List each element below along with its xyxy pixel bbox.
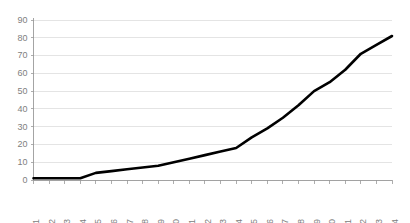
y-tick-label: 90 bbox=[17, 15, 27, 25]
chart-container: 0102030405060708090 19911992199319941995… bbox=[0, 0, 410, 223]
x-tick-label: 1993 bbox=[62, 219, 72, 223]
x-tick-label: 2005 bbox=[249, 219, 259, 223]
data-series bbox=[34, 36, 393, 178]
y-tick-label: 30 bbox=[17, 122, 27, 132]
y-tick-label: 70 bbox=[17, 50, 27, 60]
y-tick-label: 80 bbox=[17, 33, 27, 43]
y-axis bbox=[31, 18, 34, 180]
y-tick-label: 0 bbox=[22, 175, 27, 185]
x-tick-label: 1995 bbox=[93, 219, 103, 223]
x-tick-label: 2010 bbox=[327, 219, 337, 223]
x-tick-label: 2008 bbox=[296, 219, 306, 223]
x-tick-label: 2006 bbox=[265, 219, 275, 223]
y-tick-label: 40 bbox=[17, 104, 27, 114]
y-tick-label: 60 bbox=[17, 68, 27, 78]
y-axis-tick-labels: 0102030405060708090 bbox=[17, 15, 27, 185]
x-tick-label: 2011 bbox=[343, 219, 353, 223]
x-tick-label: 2000 bbox=[171, 219, 181, 223]
x-tick-label: 1992 bbox=[47, 219, 57, 223]
x-tick-label: 1999 bbox=[156, 219, 166, 223]
x-tick-label: 2001 bbox=[187, 219, 197, 223]
x-axis bbox=[34, 180, 393, 184]
gridlines bbox=[34, 20, 393, 180]
x-tick-label: 1996 bbox=[109, 219, 119, 223]
x-tick-label: 1997 bbox=[125, 219, 135, 223]
x-tick-label: 2002 bbox=[203, 219, 213, 223]
x-tick-label: 2014 bbox=[390, 219, 400, 223]
x-tick-label: 1991 bbox=[31, 219, 41, 223]
x-tick-label: 2003 bbox=[218, 219, 228, 223]
y-tick-label: 50 bbox=[17, 86, 27, 96]
x-tick-label: 2009 bbox=[312, 219, 322, 223]
x-tick-label: 1994 bbox=[78, 219, 88, 223]
x-tick-label: 2013 bbox=[374, 219, 384, 223]
y-tick-label: 10 bbox=[17, 157, 27, 167]
series-line bbox=[34, 36, 393, 178]
x-tick-label: 2007 bbox=[280, 219, 290, 223]
x-tick-label: 2004 bbox=[234, 219, 244, 223]
x-tick-label: 2012 bbox=[358, 219, 368, 223]
x-axis-tick-labels: 1991199219931994199519961997199819992000… bbox=[31, 219, 400, 223]
x-tick-label: 1998 bbox=[140, 219, 150, 223]
line-chart: 0102030405060708090 19911992199319941995… bbox=[0, 0, 410, 223]
y-tick-label: 20 bbox=[17, 139, 27, 149]
